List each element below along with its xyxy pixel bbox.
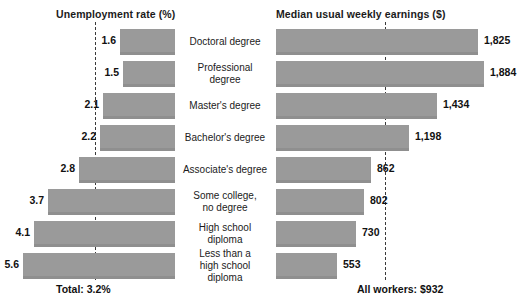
unemployment-value-label: 1.6 [56,32,116,48]
category-label-line: Associate's degree [183,164,267,176]
unemployment-bar [120,29,175,52]
earnings-bar [276,93,437,116]
category-label-line: Some college, [193,190,256,202]
unemployment-bar [103,93,175,116]
category-label: Some college,no degree [181,186,269,218]
category-label: Professional degree [181,58,269,90]
earnings-value-label: 1,434 [443,96,469,112]
left-panel-title: Unemployment rate (%) [56,8,175,20]
chart-row: 5.6Less than ahigh school diploma553 [0,250,522,282]
earnings-value-label: 730 [362,224,380,240]
earnings-bar [276,29,478,52]
category-label: Bachelor's degree [181,122,269,154]
earnings-value-label: 1,198 [415,128,441,144]
chart-row: 2.1Master's degree1,434 [0,90,522,122]
earnings-bar [276,125,409,148]
unemployment-value-label: 2.1 [39,96,99,112]
chart-row: 4.1High school diploma730 [0,218,522,250]
category-label-line: high school diploma [181,260,269,284]
unemployment-bar [23,253,175,276]
category-label: Associate's degree [181,154,269,186]
category-label-line: Less than a [181,248,269,260]
unemployment-value-label: 5.6 [0,256,19,272]
category-label-line: Professional degree [181,62,269,86]
unemployment-value-label: 2.2 [36,128,96,144]
chart-row: 1.6Doctoral degree1,825 [0,26,522,58]
earnings-bar [276,61,484,84]
earnings-bar [276,253,337,276]
unemployment-value-label: 4.1 [0,224,30,240]
category-label: Master's degree [181,90,269,122]
earnings-value-label: 862 [377,160,395,176]
unemployment-bar [100,125,175,148]
earnings-bar [276,221,356,244]
unemployment-value-label: 2.8 [15,160,75,176]
category-label-line: High school diploma [181,222,269,246]
chart-row: 3.7Some college,no degree802 [0,186,522,218]
category-label: Doctoral degree [181,26,269,58]
unemployment-bar [48,189,175,212]
left-footer-total: Total: 3.2% [56,283,111,295]
right-panel-title: Median usual weekly earnings ($) [276,8,446,20]
unemployment-bar [123,61,175,84]
earnings-value-label: 1,884 [490,64,516,80]
category-label: High school diploma [181,218,269,250]
earnings-value-label: 1,825 [484,32,510,48]
earnings-bar [276,157,371,180]
earnings-value-label: 553 [343,256,361,272]
chart-row: 2.2Bachelor's degree1,198 [0,122,522,154]
earnings-value-label: 802 [370,192,388,208]
category-label-line: Doctoral degree [189,36,260,48]
chart-row: 1.5Professional degree1,884 [0,58,522,90]
chart-row: 2.8Associate's degree862 [0,154,522,186]
unemployment-bar [34,221,175,244]
earnings-bar [276,189,364,212]
category-label-line: Bachelor's degree [185,132,265,144]
unemployment-value-label: 3.7 [0,192,44,208]
category-label-line: no degree [193,202,256,214]
category-label-line: Master's degree [189,100,260,112]
unemployment-value-label: 1.5 [59,64,119,80]
category-label: Less than ahigh school diploma [181,250,269,282]
dual-panel-bar-chart: Unemployment rate (%) Median usual weekl… [0,0,522,304]
unemployment-bar [79,157,175,180]
right-footer-total: All workers: $932 [357,283,443,295]
